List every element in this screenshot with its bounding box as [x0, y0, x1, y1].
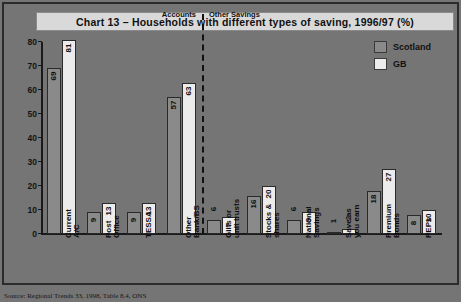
- x-axis-category-label: NationalSavings: [305, 206, 321, 238]
- bar-value-label: 8: [410, 221, 418, 225]
- x-axis-category-label: CurrentA/C: [65, 209, 81, 238]
- bar-scotland: 18: [367, 191, 381, 234]
- source-note: Source: Regional Trends 33, 1998, Table …: [4, 292, 146, 300]
- x-axis-category-label: PremiumBonds: [385, 204, 401, 238]
- y-axis-tick-mark: [38, 185, 42, 186]
- chart-legend: Scotland GB: [374, 41, 458, 75]
- bar-gb: 81: [62, 40, 76, 234]
- bar-value-label: 57: [170, 101, 178, 110]
- bar-value-label: 6: [290, 206, 298, 210]
- y-axis-tick-label: 10: [28, 205, 37, 215]
- bar-scotland: 6: [207, 220, 221, 234]
- chart-figure: Chart 13 – Households with different typ…: [0, 0, 461, 302]
- bar-scotland: 16: [247, 196, 261, 234]
- y-axis-tick-mark: [38, 65, 42, 66]
- bar-value-label: 27: [385, 173, 393, 182]
- x-axis-category-label: Save asyou earn: [345, 205, 361, 238]
- bar-scotland: 9: [87, 212, 101, 234]
- bar-value-label: 20: [265, 190, 273, 199]
- chart-frame: Chart 13 – Households with different typ…: [2, 2, 459, 285]
- y-axis-tick-label: 30: [28, 157, 37, 167]
- bar-scotland: 8: [407, 215, 421, 234]
- section-label-other-savings: Other Savings: [209, 10, 260, 19]
- bar-value-label: 63: [185, 86, 193, 95]
- x-axis-category-label: TESSA: [145, 211, 153, 238]
- x-axis-category-label: Gilts orunit trusts: [225, 199, 241, 238]
- y-axis-tick-label: 70: [28, 61, 37, 71]
- bar-value-label: 1: [330, 218, 338, 222]
- y-axis-tick-mark: [38, 161, 42, 162]
- y-axis-tick-label: 0: [32, 229, 37, 239]
- bar-scotland: 6: [287, 220, 301, 234]
- legend-swatch-gb-icon: [374, 58, 387, 70]
- bar-value-label: 9: [130, 218, 138, 222]
- legend-label-scotland: Scotland: [393, 42, 431, 52]
- bar-value-label: 69: [50, 72, 58, 81]
- y-axis-tick-mark: [38, 137, 42, 138]
- legend-swatch-scotland-icon: [374, 41, 387, 53]
- bar-scotland: 57: [167, 97, 181, 234]
- bar-value-label: 6: [210, 206, 218, 210]
- y-axis-tick-label: 80: [28, 37, 37, 47]
- bar-scotland: 9: [127, 212, 141, 234]
- x-axis-category-label: PostOffice: [105, 215, 121, 238]
- x-axis-category-label: OtherBank/BS: [185, 205, 201, 238]
- y-axis-tick-label: 20: [28, 181, 37, 191]
- bar-scotland: 69: [47, 68, 61, 234]
- y-axis-tick-mark: [38, 209, 42, 210]
- y-axis-tick-mark: [38, 89, 42, 90]
- x-axis-category-label: Stocks &shares: [265, 204, 281, 238]
- bar-value-label: 13: [105, 206, 113, 215]
- bar-value-label: 16: [250, 199, 258, 208]
- legend-item-gb: GB: [374, 58, 458, 70]
- y-axis-tick-label: 50: [28, 109, 37, 119]
- y-axis-tick-label: 40: [28, 133, 37, 143]
- bar-scotland: 1: [327, 232, 341, 234]
- bar-value-label: 81: [65, 43, 73, 52]
- y-axis-tick-mark: [38, 41, 42, 42]
- y-axis-tick-label: 60: [28, 85, 37, 95]
- y-axis-tick-mark: [38, 233, 42, 234]
- bar-value-label: 18: [370, 194, 378, 203]
- section-label-accounts: Accounts: [142, 10, 196, 19]
- y-axis-line: [41, 42, 43, 234]
- y-axis-tick-mark: [38, 113, 42, 114]
- legend-item-scotland: Scotland: [374, 41, 458, 53]
- legend-label-gb: GB: [393, 59, 407, 69]
- section-divider: [202, 14, 204, 234]
- x-axis-category-label: PEPs: [425, 218, 433, 238]
- bar-value-label: 9: [90, 218, 98, 222]
